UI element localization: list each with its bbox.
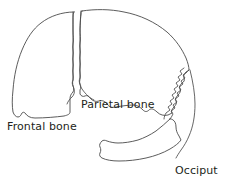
frontal-bone-outline xyxy=(12,12,74,118)
label-parietal-bone: Parietal bone xyxy=(81,99,155,111)
occipital-bone-outline xyxy=(100,119,181,161)
skull-diagram: Frontal bone Parietal bone Occiput xyxy=(0,0,225,188)
skull-illustration xyxy=(0,0,225,188)
label-frontal-bone: Frontal bone xyxy=(7,121,77,133)
label-occiput: Occiput xyxy=(175,165,218,177)
